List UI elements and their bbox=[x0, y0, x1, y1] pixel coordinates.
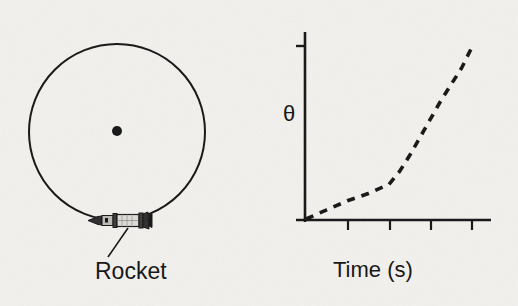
rocket-icon bbox=[88, 212, 152, 229]
rocket-exhaust-lip bbox=[149, 214, 152, 228]
rocket-annotation-label: Rocket bbox=[95, 260, 167, 283]
rocket-nose-cone bbox=[88, 216, 102, 225]
rocket-window bbox=[105, 218, 108, 223]
rocket-bulkhead-rear bbox=[139, 213, 143, 228]
x-axis-title: Time (s) bbox=[333, 259, 413, 281]
circular-track-panel: Rocket bbox=[0, 0, 259, 306]
center-dot bbox=[112, 126, 122, 136]
rocket-nozzle bbox=[143, 212, 149, 229]
y-axis-title: θ bbox=[283, 103, 295, 125]
rocket-leader-line bbox=[108, 228, 128, 257]
theta-data-curve bbox=[306, 47, 472, 219]
figure-root: Rocket 1 2 3 4 θ Time (s) bbox=[0, 0, 518, 306]
